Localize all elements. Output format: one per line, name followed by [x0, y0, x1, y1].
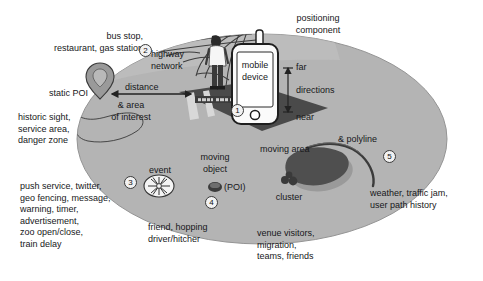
label-event: event: [140, 165, 180, 177]
label-historic-sight: historic sight, service area, danger zon…: [18, 112, 71, 147]
label-highway-network: highway network: [151, 49, 184, 72]
diagram-canvas: positioning component mobile device far …: [0, 0, 483, 281]
marker-5: 5: [383, 150, 396, 163]
label-near: near: [296, 112, 314, 124]
label-positioning-component: positioning component: [263, 13, 373, 36]
label-mobile-device: mobile device: [237, 60, 273, 83]
label-weather: weather, traffic jam, user path history: [370, 188, 448, 211]
label-push-service: push service, twitter, geo fencing, mess…: [20, 181, 111, 250]
label-moving-area: moving area: [260, 144, 310, 156]
marker-1: 1: [231, 104, 244, 117]
label-poi-parenthetical: (POI): [224, 182, 246, 194]
label-area-of-interest: & area of interest: [100, 100, 162, 123]
label-bus-stop: bus stop, restaurant, gas station: [10, 31, 143, 54]
label-moving-object: moving object: [190, 152, 240, 175]
marker-3: 3: [124, 176, 137, 189]
label-venue-visitors: venue visitors, migration, teams, friend…: [257, 228, 315, 263]
filled-ellipse-icon: [208, 182, 222, 192]
label-friend-hopping: friend, hopping driver/hitcher: [148, 222, 208, 245]
label-directions: directions: [296, 85, 335, 97]
starburst-icon: [144, 175, 174, 197]
label-distance: distance: [125, 82, 159, 94]
marker-2: 2: [139, 44, 152, 57]
label-static-poi: static POI: [20, 88, 88, 100]
label-cluster: cluster: [265, 192, 313, 204]
label-polyline: & polyline: [338, 134, 377, 146]
marker-4: 4: [205, 196, 218, 209]
label-far: far: [296, 62, 307, 74]
